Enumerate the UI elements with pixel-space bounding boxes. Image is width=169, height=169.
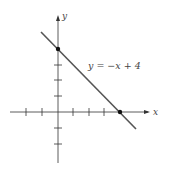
graph: y x y = −x + 4: [0, 0, 169, 169]
y-axis-arrow-icon: [56, 15, 60, 21]
equation-label: y = −x + 4: [87, 60, 141, 71]
x-axis-label: x: [153, 107, 158, 117]
y-intercept-point: [56, 47, 60, 51]
y-axis-label: y: [61, 11, 68, 21]
x-intercept-point: [118, 110, 122, 114]
line-series: [41, 32, 136, 129]
x-axis-arrow-icon: [144, 110, 150, 114]
